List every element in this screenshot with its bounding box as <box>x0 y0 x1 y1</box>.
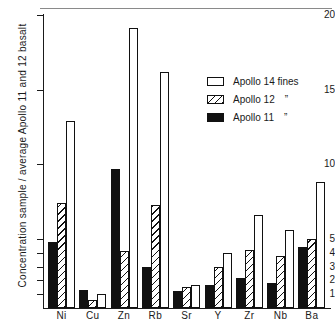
bar-nb-apollo-12 <box>276 256 285 308</box>
bar-nb-apollo-11 <box>267 283 276 308</box>
bar-rb-apollo-12 <box>151 205 160 308</box>
bar-ba-apollo-12 <box>307 239 316 308</box>
y-tick-mark <box>37 267 43 268</box>
bar-group <box>111 8 138 308</box>
bar-zr-apollo-14-fines <box>254 215 263 308</box>
legend-swatch-apollo-11 <box>207 113 224 122</box>
y-tick-mark <box>37 280 43 281</box>
y-axis-title: Concentration sample / average Apollo 11… <box>17 6 28 306</box>
bar-nb-apollo-14-fines <box>285 230 294 308</box>
legend-item: Apollo 11” <box>207 110 299 124</box>
bar-rb-apollo-11 <box>142 267 151 308</box>
legend-swatch-apollo-14-fines <box>207 77 224 86</box>
bar-y-apollo-14-fines <box>223 253 232 308</box>
bar-cu-apollo-14-fines <box>97 294 106 308</box>
bar-sr-apollo-11 <box>173 291 182 308</box>
bar-zn-apollo-11 <box>111 169 120 308</box>
bar-zn-apollo-12 <box>120 251 129 308</box>
bar-cu-apollo-11 <box>79 290 88 308</box>
bar-group <box>267 8 294 308</box>
bar-ba-apollo-14-fines <box>316 182 325 308</box>
bar-zn-apollo-14-fines <box>129 28 138 308</box>
bar-ni-apollo-11 <box>48 242 57 308</box>
legend-ditto-mark: ” <box>284 112 288 123</box>
y-tick-mark <box>37 253 43 254</box>
y-tick-mark <box>37 15 43 16</box>
y-tick-mark <box>37 239 43 240</box>
bar-group <box>236 8 263 308</box>
bar-group <box>205 8 232 308</box>
y-tick-mark <box>37 90 43 91</box>
plot-area: NiCuZnRbSrYZrNbBa <box>44 8 331 308</box>
bar-y-apollo-11 <box>205 285 214 308</box>
y-tick-mark <box>37 164 43 165</box>
y-tick-mark <box>37 294 43 295</box>
bar-sr-apollo-14-fines <box>191 285 200 308</box>
legend-label-apollo-11: Apollo 11” <box>233 112 288 123</box>
chart-root: Concentration sample / average Apollo 11… <box>0 0 335 331</box>
x-axis-line <box>43 308 331 309</box>
bar-group <box>48 8 75 308</box>
legend-swatch-apollo-12 <box>207 95 224 104</box>
x-axis-label-ba: Ba <box>292 310 331 321</box>
legend-ditto-mark: ” <box>285 94 289 105</box>
bar-cu-apollo-12 <box>88 300 97 308</box>
legend-label-apollo-12: Apollo 12” <box>233 94 289 105</box>
bar-zr-apollo-11 <box>236 278 245 308</box>
bar-rb-apollo-14-fines <box>160 72 169 308</box>
bar-group <box>298 8 325 308</box>
bar-ni-apollo-14-fines <box>66 121 75 308</box>
bar-group <box>173 8 200 308</box>
legend-item: Apollo 12” <box>207 92 299 106</box>
bar-sr-apollo-12 <box>182 287 191 308</box>
bar-group <box>79 8 106 308</box>
legend-item: Apollo 14 fines <box>207 74 299 88</box>
bar-group <box>142 8 169 308</box>
bar-ba-apollo-11 <box>298 247 307 308</box>
chart-legend: Apollo 14 fines Apollo 12” Apollo 11” <box>207 74 299 128</box>
bar-y-apollo-12 <box>214 267 223 308</box>
bar-zr-apollo-12 <box>245 250 254 308</box>
bar-ni-apollo-12 <box>57 203 66 308</box>
legend-label-apollo-14-fines: Apollo 14 fines <box>233 76 299 87</box>
